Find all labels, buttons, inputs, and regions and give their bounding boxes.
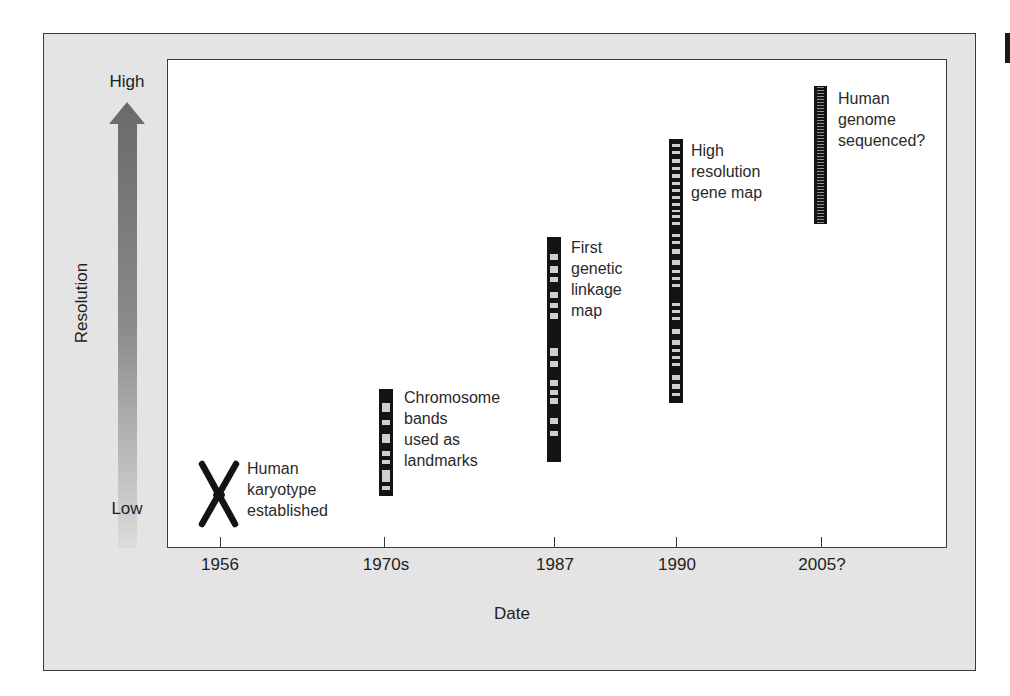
x-tick-label: 2005?: [798, 555, 845, 575]
annotation-line: genome: [838, 109, 925, 130]
x-tick-label: 1956: [201, 555, 239, 575]
annotation-line: sequenced?: [838, 130, 925, 151]
y-axis-high-label: High: [110, 72, 145, 92]
x-chromosome-icon: [196, 458, 242, 530]
annotation-line: Human: [838, 88, 925, 109]
annotation-1987: First genetic linkage map: [571, 237, 623, 321]
annotation-line: map: [571, 300, 623, 321]
annotation-line: karyotype: [247, 479, 328, 500]
annotation-2005: Human genome sequenced?: [838, 88, 925, 151]
x-tick-label: 1987: [536, 555, 574, 575]
annotation-1990: High resolution gene map: [691, 140, 762, 203]
annotation-line: Human: [247, 458, 328, 479]
banded-chromosome-icon: [669, 139, 683, 403]
x-tick-1990: [676, 537, 677, 548]
banded-chromosome-icon: [547, 237, 561, 462]
x-tick-label: 1970s: [363, 555, 409, 575]
annotation-line: First: [571, 237, 623, 258]
annotation-line: used as: [404, 429, 500, 450]
annotation-line: gene map: [691, 182, 762, 203]
banded-chromosome-icon: [379, 389, 393, 496]
x-tick-1956: [220, 537, 221, 548]
y-axis-title: Resolution: [72, 263, 92, 343]
annotation-line: bands: [404, 408, 500, 429]
annotation-1956: Human karyotype established: [247, 458, 328, 521]
x-tick-1987: [554, 537, 555, 548]
annotation-line: linkage: [571, 279, 623, 300]
annotation-line: landmarks: [404, 450, 500, 471]
y-axis-low-label: Low: [111, 499, 142, 519]
cropped-edge-bar: [1005, 33, 1010, 63]
annotation-line: genetic: [571, 258, 623, 279]
finely-banded-chromosome-icon: [814, 86, 827, 224]
resolution-arrow-icon: [105, 100, 150, 550]
x-tick-label: 1990: [658, 555, 696, 575]
annotation-line: resolution: [691, 161, 762, 182]
annotation-line: Chromosome: [404, 387, 500, 408]
annotation-line: established: [247, 500, 328, 521]
x-tick-2005: [821, 537, 822, 548]
annotation-line: High: [691, 140, 762, 161]
x-axis-title: Date: [494, 604, 530, 624]
x-tick-1970s: [384, 537, 385, 548]
annotation-1970s: Chromosome bands used as landmarks: [404, 387, 500, 471]
